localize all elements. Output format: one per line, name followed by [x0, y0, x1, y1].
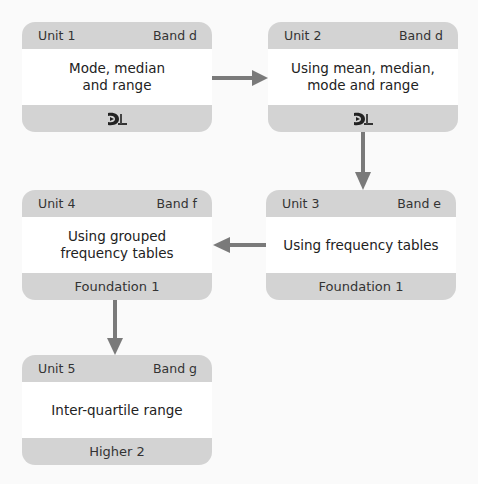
unit-header: Unit 3 Band e — [266, 190, 456, 217]
unit-header: Unit 4 Band f — [22, 190, 212, 217]
unit-number: Unit 1 — [38, 28, 75, 43]
unit-card-4: Unit 4 Band f Using grouped frequency ta… — [22, 190, 212, 300]
unit-band: Band g — [153, 361, 197, 376]
unit-footer — [268, 105, 458, 132]
unit-footer: Foundation 1 — [22, 273, 212, 300]
unit-header: Unit 5 Band g — [22, 355, 212, 382]
arrow-unit2-to-unit3 — [355, 132, 371, 190]
unit-card-1: Unit 1 Band d Mode, median and range — [22, 22, 212, 132]
unit-number: Unit 4 — [38, 196, 75, 211]
unit-band: Band e — [397, 196, 441, 211]
unit-footer: Higher 2 — [22, 438, 212, 465]
unit-header: Unit 1 Band d — [22, 22, 212, 49]
arrow-unit1-to-unit2 — [212, 70, 268, 86]
unit-band: Band d — [399, 28, 443, 43]
unit-title: Inter-quartile range — [22, 382, 212, 438]
unit-title: Using mean, median, mode and range — [268, 49, 458, 105]
unit-number: Unit 2 — [284, 28, 321, 43]
unit-number: Unit 5 — [38, 361, 75, 376]
unit-title: Using frequency tables — [266, 217, 456, 273]
unit-title: Using grouped frequency tables — [22, 217, 212, 273]
unit-footer: Foundation 1 — [266, 273, 456, 300]
arrow-unit3-to-unit4 — [213, 237, 266, 253]
unit-title: Mode, median and range — [22, 49, 212, 105]
dl-logo-icon — [105, 111, 129, 127]
unit-card-5: Unit 5 Band g Inter-quartile range Highe… — [22, 355, 212, 465]
unit-band: Band f — [157, 196, 197, 211]
dl-logo-icon — [351, 111, 375, 127]
unit-card-3: Unit 3 Band e Using frequency tables Fou… — [266, 190, 456, 300]
unit-card-2: Unit 2 Band d Using mean, median, mode a… — [268, 22, 458, 132]
unit-footer — [22, 105, 212, 132]
unit-number: Unit 3 — [282, 196, 319, 211]
unit-header: Unit 2 Band d — [268, 22, 458, 49]
arrow-unit4-to-unit5 — [107, 300, 123, 355]
unit-band: Band d — [153, 28, 197, 43]
